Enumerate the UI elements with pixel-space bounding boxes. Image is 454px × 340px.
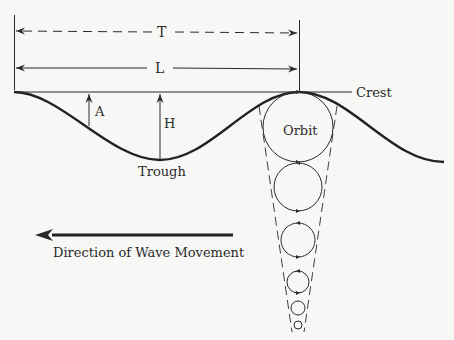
orbit-label: Orbit [283, 124, 318, 137]
wave-profile [14, 92, 444, 162]
height-label: H [164, 117, 175, 130]
orbit-circle-4 [287, 271, 309, 293]
direction-label: Direction of Wave Movement [53, 246, 244, 259]
trough-label: Trough [138, 165, 186, 178]
amplitude-label: A [95, 105, 104, 118]
orbit-circle-3 [281, 223, 315, 257]
orbit-circle-2 [274, 163, 322, 211]
orbit-cone-right [304, 106, 337, 332]
crest-label: Crest [356, 86, 392, 99]
wave-diagram: T L A H Trough Crest Orbit Direction of … [0, 0, 454, 340]
orbit-circle-6 [294, 321, 302, 329]
period-label: T [157, 25, 166, 39]
wavelength-label: L [155, 61, 164, 75]
orbit-circle-5 [291, 301, 305, 315]
orbit-cone-left [259, 106, 292, 332]
wave-diagram-graphic [0, 0, 454, 340]
